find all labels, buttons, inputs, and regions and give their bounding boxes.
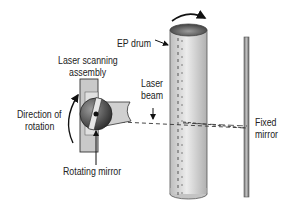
laser-scanning-assembly (80, 79, 131, 152)
fixed-mirror (244, 37, 249, 197)
diagram-canvas (0, 0, 295, 209)
direction-of-rotation-label-line1: Direction of (17, 109, 62, 120)
ep-drum-label: EP drum (117, 38, 151, 49)
fixed-mirror-label-line1: Fixed (255, 117, 277, 128)
laser-beam-label-line1: Laser (141, 78, 163, 89)
fixed-mirror-label-line2: mirror (255, 129, 278, 140)
drum-rotation-arrow (172, 14, 205, 21)
laser-beam-label-line2: beam (141, 90, 163, 101)
ep-drum-leader (155, 40, 168, 45)
rotating-mirror-label: Rotating mirror (63, 166, 121, 177)
laser-scanning-assembly-label-line2: assembly (69, 67, 106, 78)
direction-of-rotation-label-line2: rotation (25, 121, 54, 132)
direction-of-rotation-arrow (69, 95, 78, 143)
laser-scanning-assembly-label-line1: Laser scanning (58, 55, 118, 66)
ep-drum (170, 24, 207, 199)
